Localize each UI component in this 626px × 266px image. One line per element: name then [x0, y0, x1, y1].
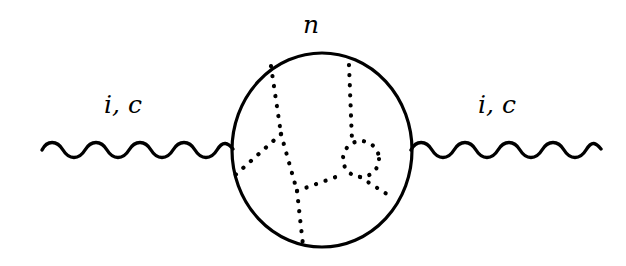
dotted-line-loop-bottom-to-right-edge	[360, 177, 393, 198]
feynman-diagram-figure: i, c i, c n	[0, 0, 626, 266]
small-dotted-loop	[343, 141, 379, 177]
central-loop-blob	[232, 53, 412, 247]
photon-line-right	[411, 143, 601, 158]
dotted-line-vertex-a-to-vertex-b	[281, 134, 297, 191]
photon-line-left	[42, 143, 233, 158]
dotted-line-vertex-a-to-left-edge	[232, 134, 281, 178]
dotted-line-top-right-to-loop-top	[349, 65, 352, 141]
dotted-line-vertex-b-to-loop-left	[297, 174, 344, 191]
dotted-line-vertex-b-to-bottom-edge	[297, 191, 303, 245]
label-outgoing-particle: i, c	[478, 92, 516, 117]
label-loop-order: n	[303, 12, 319, 37]
dotted-line-top-left-to-vertex-a	[271, 66, 281, 134]
label-incoming-particle: i, c	[104, 92, 142, 117]
diagram-canvas	[0, 0, 626, 266]
